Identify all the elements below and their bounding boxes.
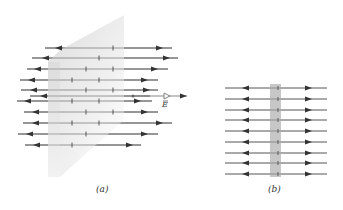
arrow-left-icon <box>55 46 62 51</box>
arrow-left-icon <box>242 118 249 123</box>
arrow-left-icon <box>242 97 249 102</box>
panel-a-perspective-sheet <box>17 15 187 177</box>
panel-b-edge-view-sheet <box>225 84 327 177</box>
arrow-right-icon <box>156 121 163 126</box>
figure-canvas <box>0 0 343 210</box>
arrow-left-icon <box>242 129 249 134</box>
caption-b: (b) <box>268 184 281 194</box>
arrow-left-icon <box>242 151 249 156</box>
arrow-right-icon <box>305 86 312 91</box>
arrow-right-icon <box>143 88 150 93</box>
sheet-edge <box>48 62 60 177</box>
arrow-left-icon <box>242 86 249 91</box>
arrow-left-icon <box>30 88 37 93</box>
arrow-right-icon <box>141 132 148 137</box>
arrow-left-icon <box>28 78 35 83</box>
arrow-right-icon <box>134 99 141 104</box>
arrow-left-icon <box>40 94 47 99</box>
arrow-right-icon <box>163 56 170 61</box>
arrow-right-icon <box>305 118 312 123</box>
arrow-right-icon <box>305 161 312 166</box>
arrow-right-icon <box>141 78 148 83</box>
arrow-left-icon <box>24 99 31 104</box>
caption-a: (a) <box>96 184 108 194</box>
arrow-left-icon <box>33 143 40 148</box>
arrow-left-icon <box>242 108 249 113</box>
arrow-left-icon <box>42 56 49 61</box>
arrow-left-icon <box>32 121 39 126</box>
arrow-right-icon <box>305 151 312 156</box>
arrow-left-icon <box>242 161 249 166</box>
arrow-right-icon <box>180 94 187 99</box>
arrow-left-icon <box>26 132 33 137</box>
arrow-left-icon <box>242 140 249 145</box>
arrow-right-icon <box>305 97 312 102</box>
arrow-right-icon <box>305 140 312 145</box>
e-vector-arrowhead-icon <box>164 93 170 99</box>
arrow-right-icon <box>151 67 158 72</box>
arrow-right-icon <box>156 46 163 51</box>
arrow-left-icon <box>34 67 41 72</box>
arrow-right-icon <box>141 110 148 115</box>
arrow-left-icon <box>32 110 39 115</box>
e-vector-origin <box>132 95 135 98</box>
arrow-right-icon <box>126 143 133 148</box>
arrow-left-icon <box>242 172 249 177</box>
electric-field-vector-label: E <box>162 100 168 109</box>
arrow-right-icon <box>305 108 312 113</box>
arrow-right-icon <box>305 172 312 177</box>
arrow-right-icon <box>305 129 312 134</box>
